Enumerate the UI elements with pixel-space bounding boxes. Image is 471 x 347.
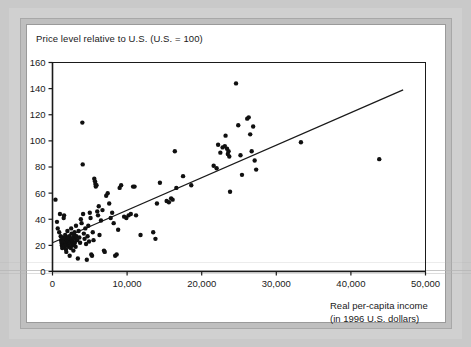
data-point xyxy=(251,124,255,128)
data-point xyxy=(155,201,159,205)
data-point xyxy=(88,216,92,220)
data-point xyxy=(97,233,101,237)
data-point xyxy=(91,238,95,242)
data-point xyxy=(110,211,114,215)
data-point xyxy=(173,149,177,153)
y-tick-label: 20 xyxy=(35,240,46,251)
data-point xyxy=(227,154,231,158)
data-point xyxy=(134,213,138,217)
y-tick-label: 60 xyxy=(35,188,46,199)
trend-line xyxy=(53,90,404,243)
data-point xyxy=(223,133,227,137)
y-tick-label: 140 xyxy=(30,83,46,94)
plot-frame xyxy=(53,63,426,272)
data-point xyxy=(248,132,252,136)
data-point xyxy=(132,184,136,188)
data-point xyxy=(78,241,82,245)
data-point xyxy=(106,191,110,195)
x-axis-title-line2: (in 1996 U.S. dollars) xyxy=(330,313,428,326)
data-point xyxy=(170,197,174,201)
data-point xyxy=(56,226,60,230)
y-tick-label: 0 xyxy=(40,266,45,277)
data-point xyxy=(216,143,220,147)
x-tick-label: 40,000 xyxy=(336,278,365,289)
x-tick-label: 30,000 xyxy=(262,278,291,289)
data-point xyxy=(86,224,90,228)
data-point xyxy=(189,183,193,187)
data-point xyxy=(96,213,100,217)
data-point xyxy=(240,173,244,177)
data-point xyxy=(236,123,240,127)
data-point xyxy=(91,230,95,234)
data-point xyxy=(249,149,253,153)
y-tick-label: 160 xyxy=(30,57,46,68)
data-point xyxy=(99,218,103,222)
data-point xyxy=(214,166,218,170)
data-point xyxy=(181,174,185,178)
data-point xyxy=(114,252,118,256)
data-point xyxy=(67,254,71,258)
data-point xyxy=(53,197,57,201)
data-point xyxy=(247,115,251,119)
data-point xyxy=(103,250,107,254)
data-point xyxy=(377,157,381,161)
data-point xyxy=(85,258,89,262)
data-point xyxy=(76,256,80,260)
data-point xyxy=(73,244,77,248)
data-point xyxy=(72,230,76,234)
data-point xyxy=(94,183,98,187)
data-point xyxy=(77,235,81,239)
data-point xyxy=(81,162,85,166)
y-tick-label: 40 xyxy=(35,214,46,225)
data-point xyxy=(100,208,104,212)
data-point xyxy=(218,150,222,154)
x-tick-label: 50,000 xyxy=(411,278,440,289)
data-point xyxy=(80,120,84,124)
data-point xyxy=(254,167,258,171)
x-tick-label: 0 xyxy=(50,278,55,289)
data-point xyxy=(64,250,68,254)
data-point xyxy=(228,190,232,194)
data-point xyxy=(79,217,83,221)
data-point xyxy=(226,149,230,153)
data-point xyxy=(87,239,91,243)
data-point xyxy=(88,211,92,215)
data-point xyxy=(111,221,115,225)
data-point xyxy=(76,229,80,233)
x-tick-label: 20,000 xyxy=(187,278,216,289)
data-point xyxy=(238,153,242,157)
data-point xyxy=(81,212,85,216)
y-tick-label: 120 xyxy=(30,109,46,120)
data-point xyxy=(151,230,155,234)
data-point xyxy=(85,234,89,238)
data-point xyxy=(90,254,94,258)
data-point xyxy=(57,230,61,234)
data-point xyxy=(167,200,171,204)
data-point xyxy=(55,220,59,224)
data-point xyxy=(95,209,99,213)
data-point xyxy=(74,224,78,228)
data-point xyxy=(158,180,162,184)
x-tick-label: 10,000 xyxy=(113,278,142,289)
data-point xyxy=(97,204,101,208)
scatter-plot: 020406080100120140160010,00020,00030,000… xyxy=(0,0,471,347)
data-point xyxy=(107,201,111,205)
data-point xyxy=(299,140,303,144)
data-point xyxy=(65,229,69,233)
data-point xyxy=(58,212,62,216)
data-point xyxy=(69,226,73,230)
data-point xyxy=(71,248,75,252)
y-tick-label: 100 xyxy=(30,135,46,146)
figure-container: Price level relative to U.S. (U.S. = 100… xyxy=(0,0,471,347)
data-point xyxy=(129,212,133,216)
data-point xyxy=(138,233,142,237)
data-point xyxy=(153,237,157,241)
data-point xyxy=(79,221,83,225)
data-point xyxy=(108,216,112,220)
data-point xyxy=(119,183,123,187)
x-axis-title: Real per-capita income (in 1996 U.S. dol… xyxy=(330,300,428,325)
data-point xyxy=(234,81,238,85)
data-point xyxy=(252,158,256,162)
y-tick-label: 80 xyxy=(35,161,46,172)
data-point xyxy=(82,231,86,235)
